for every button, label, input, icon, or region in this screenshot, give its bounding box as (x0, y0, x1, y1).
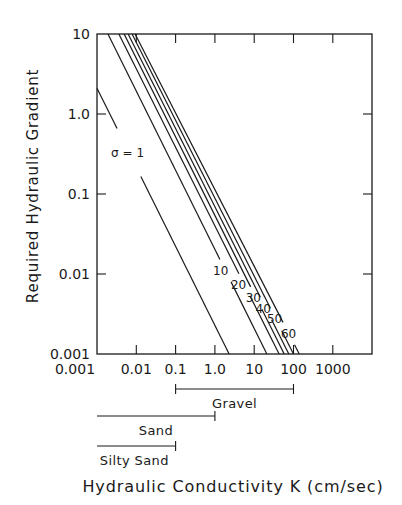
series-line (128, 34, 260, 297)
chart: σ = 1102030405060 0.0010.010.11.01010010… (0, 0, 402, 505)
line-label: 20 (231, 278, 246, 292)
range-label: Gravel (212, 396, 257, 411)
x-tick-label: 0.1 (164, 361, 186, 377)
x-tick-label: 0.001 (55, 361, 95, 377)
y-tick-label: 0.01 (59, 266, 90, 282)
line-label: 10 (213, 264, 228, 278)
x-tick-label: 100 (280, 361, 307, 377)
x-tick-label: 1.0 (204, 361, 226, 377)
line-label: σ = 1 (111, 146, 144, 160)
y-tick-label: 1.0 (68, 106, 90, 122)
line-label: 60 (281, 327, 296, 341)
series-line (97, 88, 117, 128)
y-tick-label: 10 (72, 26, 90, 42)
y-axis-label: Required Hydraulic Gradient (24, 69, 42, 303)
series-line (132, 34, 270, 308)
series-line (135, 34, 283, 322)
x-tick-label: 0.01 (121, 361, 152, 377)
x-tick-label: 10 (245, 361, 263, 377)
x-tick-label: 1000 (315, 361, 351, 377)
series-line (124, 34, 251, 287)
line-label: 50 (267, 312, 282, 326)
series-line (295, 345, 300, 354)
plot-axes (97, 34, 372, 354)
range-label: Silty Sand (100, 453, 169, 468)
x-axis-label: Hydraulic Conductivity K (cm/sec) (82, 477, 383, 496)
axis-ticks: 0.0010.010.11.0101001000101.00.10.010.00… (50, 26, 372, 377)
soil-ranges: GravelSandSilty Sand (97, 384, 294, 468)
y-tick-label: 0.1 (68, 186, 90, 202)
plot-frame (97, 34, 372, 354)
range-label: Sand (139, 423, 173, 438)
y-tick-label: 0.001 (50, 346, 90, 362)
